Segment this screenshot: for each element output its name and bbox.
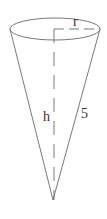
cone-diagram: r h 5 bbox=[0, 0, 107, 219]
radius-label: r bbox=[73, 14, 78, 29]
height-label: h bbox=[43, 109, 50, 124]
slant-label: 5 bbox=[81, 106, 88, 121]
cone-slant-side bbox=[53, 29, 100, 200]
